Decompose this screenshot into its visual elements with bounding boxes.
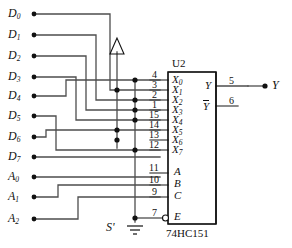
wire-d5 [34, 116, 160, 150]
terminal-label-d0: D0 [8, 7, 20, 21]
pin-number-12: 12 [149, 140, 159, 150]
wire-a2 [34, 197, 160, 219]
terminal-label-d2: D2 [8, 49, 20, 63]
chip-pin-label-e: E [174, 211, 181, 222]
wire-a1 [34, 185, 160, 197]
pin-number-5: 5 [229, 76, 234, 86]
wire-d0 [34, 14, 160, 90]
terminal-label-d6: D6 [8, 130, 20, 144]
terminal-label-a1: A1 [8, 190, 19, 204]
inverter-bubble-icon [163, 215, 169, 221]
wire-d3 [34, 77, 160, 120]
chip-designator: U2 [172, 58, 185, 69]
wire-d6 [34, 130, 160, 137]
pin-number-11: 11 [149, 163, 159, 173]
chip-pin-label-b: B [174, 178, 181, 189]
pin-number-7: 7 [152, 208, 157, 218]
ground-symbol-icon [127, 226, 143, 234]
ground-net-label: S' [106, 221, 115, 233]
wire-d4 [34, 80, 160, 96]
chip-pin-label-y: Y [205, 80, 211, 91]
terminal-label-a2: A2 [8, 212, 19, 226]
pin-number-6: 6 [229, 96, 234, 106]
terminal-label-d1: D1 [8, 28, 20, 42]
pin-number-9: 9 [152, 187, 157, 197]
output-terminal-label-y: Y [272, 79, 279, 91]
terminal-label-a0: A0 [8, 170, 19, 184]
terminal-label-d3: D3 [8, 70, 20, 84]
terminal-label-d7: D7 [8, 150, 20, 164]
schematic-wires [0, 0, 292, 248]
chip-part-number: 74HC151 [166, 228, 209, 239]
chip-pin-label-a: A [174, 166, 181, 177]
circuit-diagram-canvas: D0 D1 D2 D3 D4 D5 D6 D7 A0 A1 A2 U2 74HC… [0, 0, 292, 248]
terminal-label-d4: D4 [8, 89, 20, 103]
pin-number-10: 10 [149, 175, 159, 185]
terminal-label-d5: D5 [8, 109, 20, 123]
chip-pin-label-c: C [174, 190, 181, 201]
chip-pin-label-x7: X7 [172, 144, 182, 157]
wire-d2 [34, 56, 160, 110]
chip-pin-label-y-bar: Y [203, 100, 209, 112]
